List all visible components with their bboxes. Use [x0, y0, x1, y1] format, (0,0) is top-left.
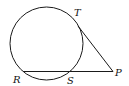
circle [10, 7, 83, 80]
point-label-p: P [114, 67, 122, 78]
point-label-t: T [74, 7, 82, 18]
point-label-s: S [67, 75, 74, 86]
tangent-segment-pt [78, 26, 113, 72]
point-label-r: R [12, 74, 21, 85]
tangent-secant-diagram: T P R S [0, 0, 129, 86]
